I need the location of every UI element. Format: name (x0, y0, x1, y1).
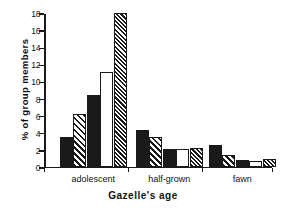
x-tick (202, 168, 203, 172)
bar (209, 145, 222, 166)
y-tick-label: 8 (36, 95, 41, 105)
y-tick-label: 16 (31, 26, 40, 36)
bar (163, 149, 176, 167)
x-tick (128, 168, 129, 172)
y-tick-label: 14 (31, 43, 40, 53)
y-tick-label: 2 (36, 146, 41, 156)
bar (100, 72, 113, 166)
category-label: fawn (233, 174, 252, 184)
y-tick-label: 0 (36, 163, 41, 173)
bar-group (60, 13, 127, 167)
y-axis-line (44, 14, 46, 168)
bar (236, 160, 249, 167)
bar-group (136, 13, 203, 167)
bar (87, 95, 100, 167)
bar (60, 137, 73, 167)
x-tick (272, 168, 273, 172)
y-tick-label: 10 (31, 77, 40, 87)
bar-chart-figure: % of group members 024681012141618 adole… (0, 0, 286, 208)
bar (73, 114, 86, 166)
y-tick-label: 6 (36, 112, 41, 122)
x-tick (44, 168, 45, 172)
bar (114, 13, 127, 167)
y-tick-label: 4 (36, 129, 41, 139)
category-label: adolescent (72, 174, 116, 184)
bar (149, 137, 162, 167)
bar (176, 149, 189, 167)
bar (222, 155, 235, 167)
x-axis-line (44, 167, 272, 169)
bar (249, 161, 262, 166)
bar (263, 159, 276, 167)
bar (190, 148, 203, 167)
y-axis-title: % of group members (19, 20, 30, 160)
y-tick-label: 18 (31, 9, 40, 19)
bar (136, 130, 149, 167)
x-axis-title: Gazelle's age (0, 190, 286, 201)
bar-group (209, 13, 276, 167)
plot-area: 024681012141618 (44, 14, 272, 168)
category-label: half-grown (148, 174, 190, 184)
y-tick-label: 12 (31, 60, 40, 70)
